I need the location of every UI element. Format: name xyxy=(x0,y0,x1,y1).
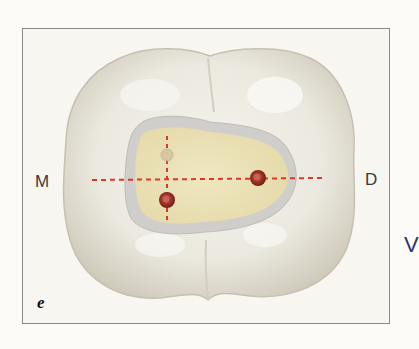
mesiobuccal-orifice xyxy=(161,149,174,162)
distal-label: D xyxy=(365,170,377,190)
mesiolingual-orifice xyxy=(159,192,175,208)
distal-orifice xyxy=(250,170,266,186)
cropped-edge-text: V xyxy=(404,232,419,258)
mesial-label: M xyxy=(35,172,49,192)
panel-label: e xyxy=(37,293,45,313)
